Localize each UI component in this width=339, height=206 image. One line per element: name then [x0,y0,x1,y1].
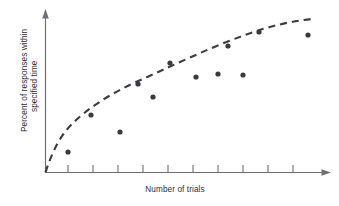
data-point [88,112,93,117]
data-point [65,149,70,154]
data-point [150,94,155,99]
data-point [215,71,220,76]
data-point [135,81,140,86]
y-axis-label: Percent of responses within specified ti… [20,28,39,132]
chart-figure: Percent of responses within specified ti… [0,0,339,206]
data-point [193,74,198,79]
data-point [305,32,310,37]
trend-curve [46,19,313,173]
y-axis [42,9,49,173]
data-point [240,72,245,77]
x-axis-arrowhead [322,169,332,175]
data-point [117,129,122,134]
y-axis-label-line2: specified time [30,60,39,112]
x-axis-label: Number of trials [145,185,204,194]
y-axis-label-line1: Percent of responses within [20,28,29,132]
data-point [225,43,230,48]
x-axis-ticks [68,165,293,173]
scatter-plot-svg: Percent of responses within specified ti… [0,0,339,206]
data-point [167,60,172,65]
data-points [65,29,310,154]
x-axis [46,169,332,175]
y-axis-arrowhead [42,9,49,19]
data-point [256,29,261,34]
